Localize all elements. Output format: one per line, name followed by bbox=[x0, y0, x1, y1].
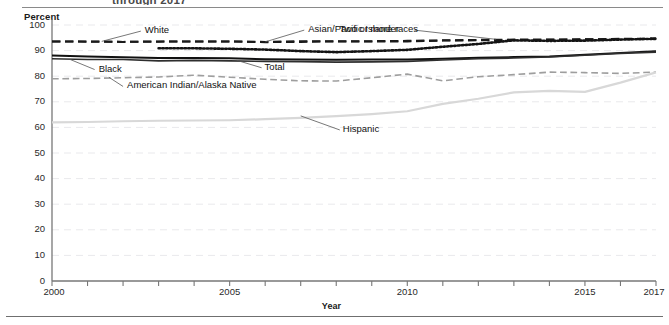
x-axis-tick-label: 2017 bbox=[634, 286, 669, 297]
y-axis-tick-label: 70 bbox=[19, 95, 45, 106]
series-label-hispanic: Hispanic bbox=[343, 123, 379, 134]
series-label-total: Total bbox=[265, 61, 285, 72]
y-axis-tick-label: 20 bbox=[19, 223, 45, 234]
label-leader-line bbox=[265, 30, 304, 42]
series-label-american-indian-alaska-native: American Indian/Alaska Native bbox=[127, 79, 256, 90]
series-label-black: Black bbox=[99, 63, 122, 74]
y-axis-tick-label: 50 bbox=[19, 147, 45, 158]
label-leader-line bbox=[102, 31, 141, 41]
label-leader-line bbox=[70, 59, 95, 69]
x-axis-tick-label: 2010 bbox=[387, 286, 427, 297]
series-label-white: White bbox=[145, 24, 169, 35]
x-axis-tick-label: 2015 bbox=[565, 286, 605, 297]
bottom-divider-rule bbox=[6, 316, 663, 317]
x-axis-title: Year bbox=[0, 301, 663, 311]
y-axis-tick-label: 40 bbox=[19, 172, 45, 183]
y-axis-tick-label: 80 bbox=[19, 70, 45, 81]
label-leader-line bbox=[414, 30, 496, 39]
x-axis-tick-label: 2005 bbox=[210, 286, 250, 297]
y-axis-tick-label: 60 bbox=[19, 121, 45, 132]
y-axis-tick-label: 10 bbox=[19, 249, 45, 260]
x-axis-tick-label: 2000 bbox=[34, 286, 74, 297]
series-label-two-or-more-races: Two or more races bbox=[339, 23, 418, 34]
y-axis-tick-label: 0 bbox=[19, 275, 45, 286]
y-axis-tick-label: 100 bbox=[19, 19, 45, 30]
y-axis-tick-label: 90 bbox=[19, 44, 45, 55]
y-axis-tick-label: 30 bbox=[19, 198, 45, 209]
